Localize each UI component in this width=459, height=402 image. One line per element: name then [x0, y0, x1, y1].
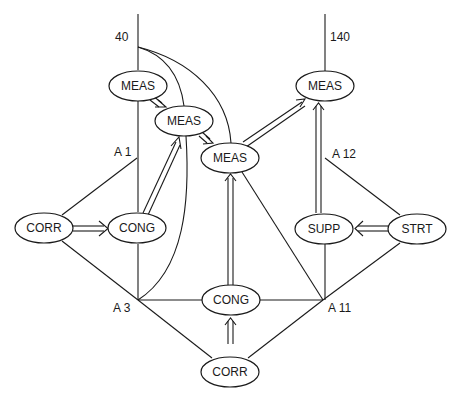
node-meas-3[interactable]: MEAS — [201, 143, 259, 173]
arrow-corr-bottom-to-cong-center — [225, 318, 236, 344]
edge-a3-corr-bottom — [138, 300, 212, 358]
label-a1: A 1 — [114, 145, 132, 159]
node-corr-left[interactable]: CORR — [15, 213, 73, 243]
arrow-meas-3-to-meas-4 — [243, 99, 305, 147]
edge-a11-strt — [323, 243, 400, 300]
svg-text:MEAS: MEAS — [167, 114, 201, 128]
arrow-cong-to-meas-2 — [143, 137, 181, 215]
edge-corr-bottom-a11 — [248, 300, 323, 358]
arrow-supp-to-meas-4 — [313, 103, 324, 213]
svg-text:MEAS: MEAS — [213, 151, 247, 165]
strategy-diagram: 40 140 A 1 A 3 A 11 A 12 MEAS MEAS MEAS … — [0, 0, 459, 402]
svg-text:MEAS: MEAS — [308, 79, 342, 93]
svg-text:CONG: CONG — [119, 221, 155, 235]
svg-text:STRT: STRT — [401, 222, 433, 236]
node-meas-4[interactable]: MEAS — [296, 71, 354, 101]
node-strt[interactable]: STRT — [388, 214, 446, 244]
label-a3: A 3 — [113, 301, 131, 315]
svg-text:CORR: CORR — [212, 365, 248, 379]
arrow-meas-2-to-meas-3 — [199, 132, 213, 144]
node-cong-center[interactable]: CONG — [202, 285, 260, 315]
arrow-strt-to-supp — [355, 221, 388, 236]
edge-a12-strt — [325, 158, 400, 215]
node-supp[interactable]: SUPP — [295, 214, 353, 244]
svg-text:MEAS: MEAS — [121, 79, 155, 93]
label-140: 140 — [330, 30, 350, 44]
node-meas-2[interactable]: MEAS — [155, 106, 213, 136]
edge-corr-a3 — [62, 241, 138, 300]
node-meas-1[interactable]: MEAS — [109, 71, 167, 101]
label-a11: A 11 — [328, 301, 351, 315]
svg-text:CORR: CORR — [26, 221, 62, 235]
arrow-cong-center-to-meas-3 — [225, 174, 236, 285]
edge-a1-corr — [62, 158, 137, 215]
svg-text:CONG: CONG — [213, 293, 249, 307]
node-cong-left[interactable]: CONG — [108, 213, 166, 243]
svg-text:SUPP: SUPP — [308, 222, 341, 236]
node-corr-bottom[interactable]: CORR — [201, 357, 259, 387]
label-a12: A 12 — [332, 147, 356, 161]
label-40: 40 — [115, 30, 129, 44]
arrow-corr-to-cong — [73, 221, 108, 236]
